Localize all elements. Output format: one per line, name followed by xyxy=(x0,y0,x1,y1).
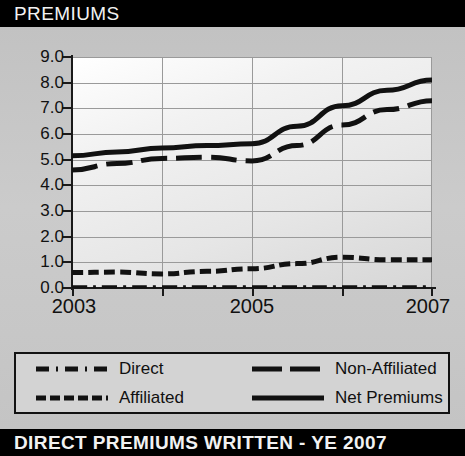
series-line-non-affiliated xyxy=(72,101,432,170)
chart-card: PREMIUMS xyxy=(0,0,465,456)
legend-swatch-dash-dot-icon xyxy=(34,363,110,375)
chart-legend: Direct Non-Affiliated Affiliated Net Pre… xyxy=(14,352,450,414)
legend-swatch-solid-icon xyxy=(250,392,326,404)
legend-swatch-long-dash-icon xyxy=(250,363,326,375)
legend-item-non-affiliated[interactable]: Non-Affiliated xyxy=(232,359,448,379)
series-layer xyxy=(0,27,465,317)
legend-swatch-short-dash-icon xyxy=(34,392,110,404)
legend-label-affiliated: Affiliated xyxy=(119,388,184,408)
page-title: PREMIUMS xyxy=(14,3,120,25)
legend-label-net-premiums: Net Premiums xyxy=(335,388,443,408)
card-body: 9.0 8.0 7.0 6.0 5.0 4.0 3.0 2.0 1.0 0.0 … xyxy=(0,27,465,429)
card-footer-bar: DIRECT PREMIUMS WRITTEN - YE 2007 xyxy=(0,429,465,456)
footer-title: DIRECT PREMIUMS WRITTEN - YE 2007 xyxy=(14,432,387,454)
legend-item-direct[interactable]: Direct xyxy=(16,359,232,379)
line-chart: 9.0 8.0 7.0 6.0 5.0 4.0 3.0 2.0 1.0 0.0 … xyxy=(0,27,465,317)
legend-label-non-affiliated: Non-Affiliated xyxy=(335,359,437,379)
series-line-affiliated xyxy=(72,257,432,274)
card-title-bar: PREMIUMS xyxy=(0,0,465,27)
series-line-net-premiums xyxy=(72,80,432,156)
legend-item-net-premiums[interactable]: Net Premiums xyxy=(232,388,448,408)
legend-label-direct: Direct xyxy=(119,359,163,379)
legend-item-affiliated[interactable]: Affiliated xyxy=(16,388,232,408)
